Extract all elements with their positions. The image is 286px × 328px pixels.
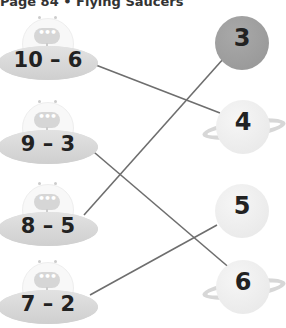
saucer-expression: 9 – 3 [0,132,98,156]
alien-eyes-icon: ••• [34,192,60,205]
planet-number: 6 [216,268,270,296]
antenna-icon [38,182,41,185]
planet-6[interactable]: 6 [208,256,278,326]
planet-4[interactable]: 4 [208,96,278,166]
saucer-expression: 8 – 5 [0,214,98,238]
antenna-icon [38,100,41,103]
planet-number: 3 [215,24,269,52]
planet-number: 4 [216,108,270,136]
antenna-icon [54,16,57,19]
saucer-expression: 10 – 6 [0,48,98,72]
antenna-icon [38,260,41,263]
alien-eyes-icon: ••• [34,26,60,39]
planet-3[interactable]: 3 [207,12,277,82]
planet-5[interactable]: 5 [207,180,277,250]
antenna-icon [54,100,57,103]
antenna-icon [54,260,57,263]
connection-line-7-2-to-5 [90,225,217,295]
saucer-1[interactable]: ••• 10 – 6 [0,14,98,84]
connection-line-10-6-to-4 [88,62,220,113]
saucer-4[interactable]: ••• 7 – 2 [0,258,98,328]
saucer-expression: 7 – 2 [0,292,98,316]
saucer-2[interactable]: ••• 9 – 3 [0,98,98,168]
alien-eyes-icon: ••• [34,270,60,283]
saucer-3[interactable]: ••• 8 – 5 [0,180,98,250]
antenna-icon [38,16,41,19]
alien-eyes-icon: ••• [34,110,60,123]
antenna-icon [54,182,57,185]
planet-number: 5 [215,192,269,220]
